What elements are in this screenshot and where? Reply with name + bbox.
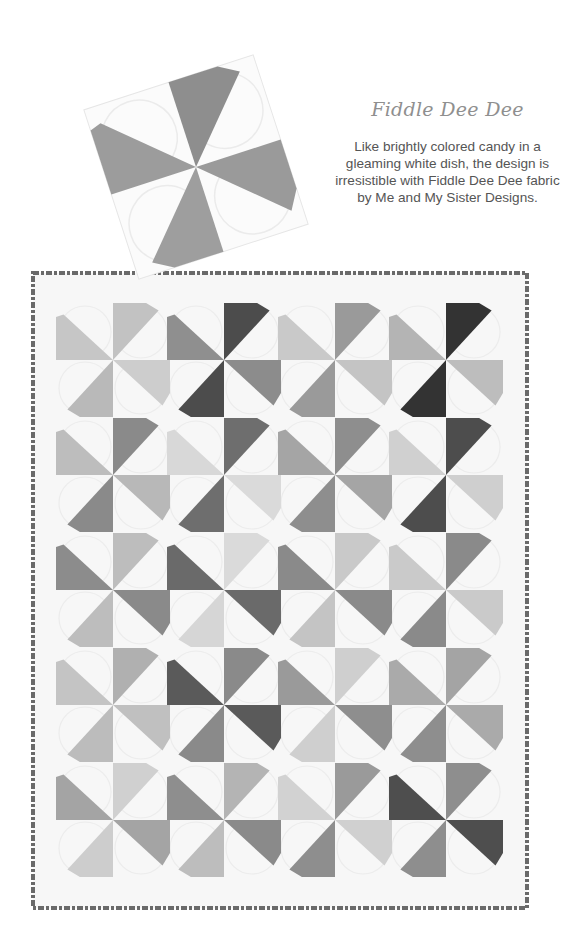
description-line: gleaming white dish, the design is: [335, 155, 560, 172]
pinwheel-detail-block: [84, 55, 308, 279]
feature-title: Fiddle Dee Dee: [340, 98, 555, 120]
description-line: irresistible with Fiddle Dee Dee fabric: [335, 172, 560, 189]
feature-description: Like brightly colored candy in a gleamin…: [335, 138, 560, 206]
description-line: by Me and My Sister Designs.: [335, 189, 560, 206]
description-line: Like brightly colored candy in a: [335, 138, 560, 155]
pinwheel-quilt: [33, 273, 527, 908]
